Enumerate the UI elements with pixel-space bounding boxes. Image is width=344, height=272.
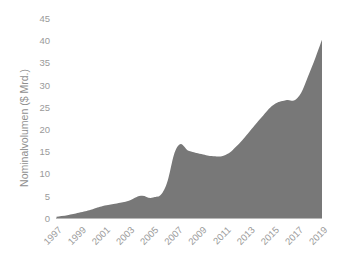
y-axis-tick-label: 30 bbox=[39, 80, 50, 91]
y-axis-tick-label: 10 bbox=[39, 168, 50, 179]
y-axis-tick-label: 0 bbox=[45, 213, 50, 224]
y-axis-tick-label: 45 bbox=[39, 13, 50, 24]
y-axis-tick-label: 35 bbox=[39, 57, 50, 68]
y-axis-tick-label: 15 bbox=[39, 146, 50, 157]
y-axis-tick-label: 25 bbox=[39, 102, 50, 113]
y-axis-tick-label: 40 bbox=[39, 35, 50, 46]
area-chart: 051015202530354045 199719992001200320052… bbox=[0, 0, 344, 272]
chart-container: 051015202530354045 199719992001200320052… bbox=[0, 0, 344, 272]
y-axis-tick-label: 5 bbox=[45, 191, 50, 202]
y-axis-title: Nominalvolumen ($ Mrd.) bbox=[18, 69, 30, 187]
y-axis-tick-label: 20 bbox=[39, 124, 50, 135]
